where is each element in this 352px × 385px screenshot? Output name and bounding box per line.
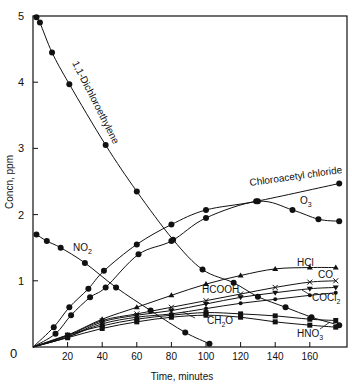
data-point (33, 231, 39, 237)
data-point (336, 180, 342, 186)
data-point (134, 188, 140, 194)
data-point (206, 341, 212, 347)
data-point (168, 222, 174, 228)
data-point (134, 241, 140, 247)
y-tick-label: 4 (18, 76, 24, 88)
x-tick-label: 60 (131, 351, 143, 362)
data-point (100, 326, 105, 331)
data-point (51, 324, 57, 330)
y-axis-label: Concn, ppm (4, 155, 15, 209)
leader-hno3 (320, 322, 330, 329)
data-point (66, 81, 72, 87)
x-tick-label: 40 (97, 351, 109, 362)
y-tick-label: 2 (18, 209, 24, 221)
label-ch2o: CH2O (207, 315, 233, 328)
y-tick-label: 3 (18, 142, 24, 154)
y-tick-label: 5 (18, 10, 24, 22)
data-point (113, 284, 119, 290)
x-tick-label: 20 (62, 351, 74, 362)
data-point (52, 331, 58, 337)
data-point (203, 215, 209, 221)
data-point (273, 313, 278, 318)
label-co: CO (318, 269, 333, 280)
data-point (315, 216, 321, 222)
data-point (307, 317, 312, 322)
data-point (58, 245, 64, 251)
leader-cocl2 (302, 290, 312, 296)
data-point (238, 315, 243, 320)
data-point (333, 318, 338, 323)
label-no2: NO2 (73, 242, 92, 255)
data-point (101, 268, 107, 274)
data-point (66, 304, 72, 310)
data-point (239, 301, 243, 305)
data-point (33, 14, 39, 20)
label-hcooh: HCOOH (202, 284, 239, 295)
label-hno3: HNO3 (297, 328, 323, 341)
data-point (273, 297, 277, 301)
x-tick-label: 140 (267, 351, 284, 362)
data-point (65, 335, 70, 340)
data-point (169, 315, 174, 320)
series-line (33, 201, 339, 347)
axis-ticks: 2040608010012014016012345 (18, 10, 319, 362)
x-tick-label: 120 (232, 351, 249, 362)
data-point (255, 294, 261, 300)
data-point (203, 207, 209, 213)
data-point (49, 49, 55, 55)
data-point (255, 198, 261, 204)
data-point (136, 251, 142, 257)
data-point (200, 267, 206, 273)
origin-label: 0 (10, 346, 17, 361)
x-axis-label: Time, minutes (151, 371, 213, 382)
label-hcl: HCl (297, 257, 314, 268)
data-point (44, 238, 50, 244)
data-point (336, 218, 342, 224)
data-point (290, 207, 296, 213)
x-tick-label: 160 (301, 351, 318, 362)
data-point (37, 20, 43, 26)
data-point (134, 319, 139, 324)
x-tick-label: 100 (198, 351, 215, 362)
data-point (168, 238, 174, 244)
data-point (87, 294, 93, 300)
label-chloroacetyl-chloride: Chloroacetyl chloride (249, 164, 343, 188)
series-line (33, 293, 336, 347)
label-o3: O3 (300, 195, 312, 208)
data-point (82, 260, 88, 266)
data-point (204, 307, 208, 311)
label-cocl2: COCl2 (312, 292, 340, 305)
data-point (148, 308, 154, 314)
y-tick-label: 1 (18, 275, 24, 287)
data-point (68, 312, 74, 318)
data-point (273, 319, 278, 324)
data-point (307, 323, 312, 328)
data-point (103, 142, 109, 148)
data-point (182, 329, 188, 335)
x-tick-label: 80 (166, 351, 178, 362)
data-point (85, 286, 91, 292)
series-line (36, 234, 209, 343)
data-point (333, 325, 338, 330)
label-dichloroethylene: 1,1-Dichloroethylene (70, 59, 122, 146)
chart: 2040608010012014016012345 0 Time, minute… (0, 0, 352, 385)
data-point (283, 304, 289, 310)
data-point (103, 284, 109, 290)
